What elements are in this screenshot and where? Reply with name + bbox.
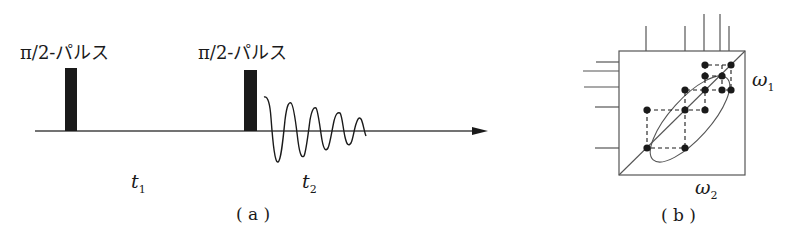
pulse-1-label: π/2-パルス: [20, 38, 109, 64]
panel-b-caption: ( b ): [661, 205, 696, 225]
pulse-2-label: π/2-パルス: [198, 38, 287, 64]
t2-label: t2: [302, 170, 317, 196]
omega1-base: ω: [752, 68, 768, 90]
t1-label: t1: [131, 170, 146, 196]
t1-base: t: [131, 170, 139, 192]
fid-signal: [264, 97, 366, 162]
panel-a: [35, 68, 488, 162]
pulse-2: [244, 70, 257, 131]
omega2-base: ω: [695, 176, 711, 198]
omega2-label: ω2: [695, 176, 718, 202]
panel-b: [583, 14, 745, 175]
t2-base: t: [302, 170, 310, 192]
omega1-subscript: 1: [768, 81, 775, 94]
top-projection-lines: [646, 14, 729, 51]
diagonal-line: [619, 51, 745, 175]
left-projection-lines: [583, 62, 619, 148]
pulse-1: [65, 68, 77, 131]
omega1-label: ω1: [752, 68, 775, 94]
ellipse-highlight: [638, 65, 741, 174]
t1-subscript: 1: [139, 183, 146, 196]
omega2-subscript: 2: [711, 189, 718, 202]
t2-subscript: 2: [310, 183, 317, 196]
panel-a-caption: ( a ): [236, 204, 270, 224]
time-axis-arrowhead: [472, 127, 488, 135]
